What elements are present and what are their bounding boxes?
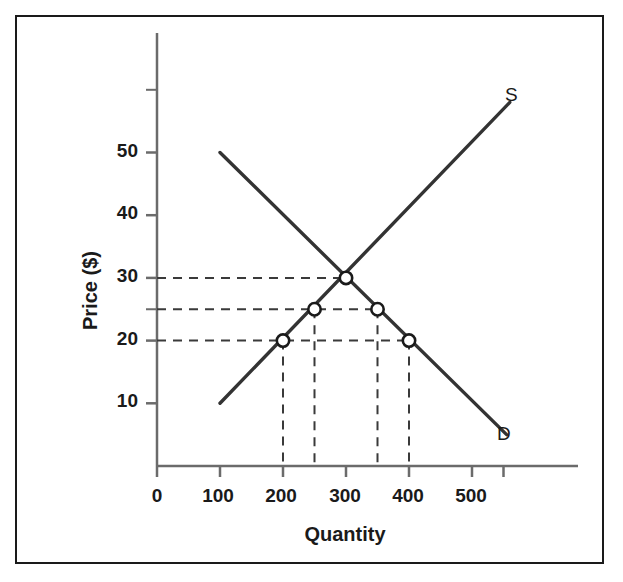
x-axis-tick-label: 200 [246,486,316,505]
x-axis-tick-label: 100 [183,486,253,505]
data-point-marker [277,334,289,346]
y-axis-tick-label: 30 [96,266,138,285]
data-point-marker [340,272,352,284]
y-axis-tick-label: 10 [96,391,138,410]
data-point-marker [371,303,383,315]
x-axis-tick-label: 500 [436,486,506,505]
data-point-marker [403,334,415,346]
y-axis-tick-label: 40 [96,203,138,222]
supply-demand-figure: 5040302010 0100200300400500 Price ($) Qu… [0,0,623,582]
x-axis-ticks [157,466,504,477]
x-axis-tick-label: 0 [122,486,192,505]
curve-D [220,153,507,435]
curve-S [220,102,510,403]
data-point-marker [308,303,320,315]
y-axis-ticks [146,90,157,404]
curve-lines [220,102,510,434]
data-point-markers [277,272,415,347]
x-axis-tick-label: 300 [310,486,380,505]
y-axis-tick-label: 50 [96,141,138,160]
x-axis-title: Quantity [265,524,425,544]
demand-curve-label: D [497,424,511,443]
supply-curve-label: S [505,85,518,104]
y-axis-title: Price ($) [80,251,100,330]
vertical-guide-lines [283,309,409,466]
y-axis-tick-label: 20 [96,329,138,348]
x-axis-tick-label: 400 [373,486,443,505]
